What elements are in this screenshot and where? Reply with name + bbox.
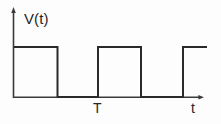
x-axis-arrowhead (198, 95, 204, 100)
period-tick-label: T (93, 101, 102, 115)
square-wave-trace (14, 47, 207, 97)
y-axis (11, 7, 16, 98)
x-axis-label: t (191, 101, 195, 115)
y-axis-arrowhead (11, 7, 16, 13)
y-axis-label: V(t) (24, 11, 49, 26)
square-wave-figure: V(t) T t (0, 0, 221, 124)
